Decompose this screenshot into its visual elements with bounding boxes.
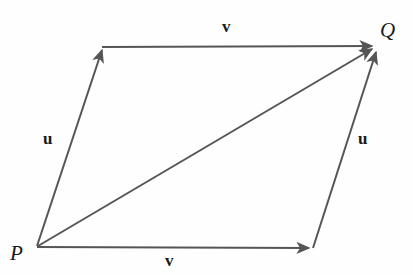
point-label-p: P	[10, 243, 23, 264]
vector-diagram-figure: v u u v P Q	[0, 0, 413, 275]
vector-u-right-line	[313, 52, 376, 248]
vector-label-u-right: u	[358, 130, 368, 147]
vector-v-top-line	[102, 46, 372, 47]
vector-label-v-top: v	[222, 18, 231, 35]
vector-v-bottom-line	[37, 247, 309, 248]
vector-label-u-left: u	[43, 130, 53, 147]
vector-diagram-canvas	[0, 0, 413, 275]
point-label-q: Q	[380, 20, 395, 41]
vector-u-left-line	[37, 50, 102, 246]
vector-resultant-diagonal-line	[38, 49, 372, 246]
vector-label-v-bottom: v	[165, 252, 174, 269]
